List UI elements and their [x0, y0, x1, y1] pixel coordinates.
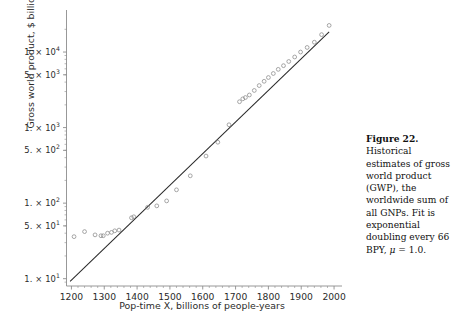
mu-value: = 1.0. — [395, 245, 426, 255]
x-axis-title: Pop-time X, billions of people-years — [66, 300, 338, 311]
data-point — [188, 174, 192, 178]
data-point — [130, 216, 134, 220]
data-point — [101, 234, 105, 238]
figure-22: 1. × 1015. × 1011. × 1025. × 1021. × 103… — [0, 0, 457, 327]
chart-plot-area: 1. × 1015. × 1011. × 1025. × 1021. × 103… — [0, 0, 352, 327]
data-point — [216, 140, 220, 144]
y-tick-label: 1. × 102 — [0, 198, 60, 208]
data-point — [83, 230, 87, 234]
data-point — [72, 235, 76, 239]
data-point — [327, 24, 331, 28]
data-point — [132, 215, 136, 219]
data-point — [271, 72, 275, 76]
data-series-gwp — [72, 24, 331, 239]
data-point — [113, 229, 117, 233]
data-point — [252, 89, 256, 93]
figure-caption: Figure 22. Historical estimates of gross… — [366, 133, 454, 256]
data-point — [312, 40, 316, 44]
data-point — [262, 79, 266, 83]
data-point — [106, 231, 110, 235]
fit-line — [70, 32, 329, 282]
data-point — [293, 55, 297, 59]
data-point — [238, 100, 242, 104]
figure-caption-body: Historical estimates of gross world prod… — [366, 146, 450, 254]
data-point — [282, 64, 286, 68]
data-point — [276, 67, 280, 71]
figure-number: Figure 22. — [366, 133, 418, 144]
data-point — [257, 84, 261, 88]
y-tick-label: 5. × 101 — [0, 221, 60, 231]
data-point — [305, 46, 309, 50]
data-point — [93, 233, 97, 237]
data-point — [204, 154, 208, 158]
data-point — [165, 199, 169, 203]
y-tick-label: 1. × 101 — [0, 274, 60, 284]
data-point — [320, 33, 324, 37]
data-point — [117, 228, 121, 232]
data-point — [287, 60, 291, 64]
data-point — [227, 123, 231, 127]
data-point — [155, 204, 159, 208]
data-point — [175, 188, 179, 192]
data-point — [247, 93, 251, 97]
y-axis-title: Gross world product, $ billions — [25, 0, 36, 158]
data-point — [267, 76, 271, 80]
data-point — [299, 50, 303, 54]
